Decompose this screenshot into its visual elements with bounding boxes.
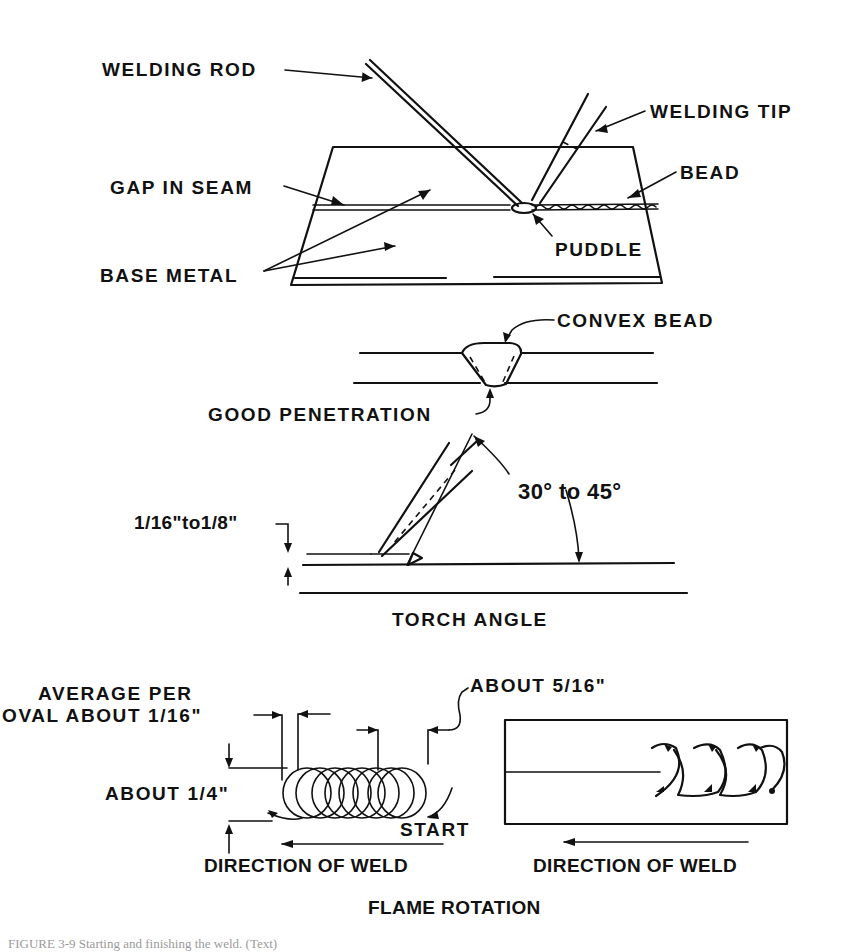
- label-angle-range: 30° to 45°: [518, 479, 622, 504]
- label-about-1-4: ABOUT 1/4": [105, 783, 229, 804]
- rotation-crescents: [652, 744, 784, 796]
- label-welding-rod: WELDING ROD: [102, 59, 257, 80]
- setup-panel: WELDING ROD WELDING TIP GAP IN SEAM BEAD…: [100, 59, 792, 286]
- label-average-per: AVERAGE PER: [38, 683, 193, 704]
- torch-body-right: [382, 471, 472, 556]
- welding-rod-inner: [366, 64, 518, 206]
- torch-body-left: [379, 443, 449, 552]
- label-good-penetration: GOOD PENETRATION: [208, 404, 432, 425]
- label-puddle: PUDDLE: [555, 239, 643, 260]
- torch-outer: [451, 442, 476, 465]
- label-convex-bead: CONVEX BEAD: [557, 310, 714, 331]
- label-direction-of-weld-left: DIRECTION OF WELD: [204, 855, 408, 876]
- seam-line-top-right: [532, 204, 658, 205]
- figure-caption: FIGURE 3-9 Starting and finishing the we…: [8, 936, 277, 951]
- panel-title-torch-angle: TORCH ANGLE: [392, 609, 548, 630]
- label-start: START: [400, 819, 470, 840]
- panel-title-flame-rotation: FLAME ROTATION: [368, 897, 541, 918]
- label-about-5-16: ABOUT 5/16": [470, 675, 606, 696]
- convex-bead-shape: [462, 343, 521, 386]
- weld-ovals: [283, 768, 426, 818]
- flame-rotation-panel: AVERAGE PER OVAL ABOUT 1/16" ABOUT 5/16"…: [2, 675, 787, 918]
- welding-rod: [370, 60, 522, 203]
- torch-angle-panel: 30° to 45° 1/16"to1/8" TORCH ANGLE: [134, 434, 687, 630]
- label-oval-about: OVAL ABOUT 1/16": [2, 705, 202, 726]
- welding-diagram: WELDING ROD WELDING TIP GAP IN SEAM BEAD…: [0, 0, 856, 952]
- torch-angle-reference: [407, 434, 472, 565]
- label-base-metal: BASE METAL: [100, 265, 238, 286]
- label-direction-of-weld-right: DIRECTION OF WELD: [533, 855, 737, 876]
- label-bead: BEAD: [680, 162, 740, 183]
- label-tip-distance: 1/16"to1/8": [134, 512, 238, 533]
- label-gap-in-seam: GAP IN SEAM: [110, 177, 253, 198]
- label-welding-tip: WELDING TIP: [650, 101, 792, 122]
- cross-section-panel: CONVEX BEAD GOOD PENETRATION: [208, 310, 714, 425]
